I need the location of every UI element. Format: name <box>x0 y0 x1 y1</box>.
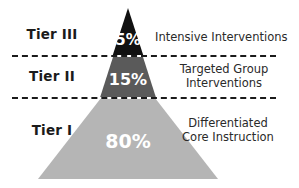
divider-tier3-tier2 <box>12 55 276 57</box>
tier-label-tier-1: Tier I <box>0 122 104 138</box>
tier-label-tier-3: Tier III <box>0 26 104 42</box>
tier-label-tier-2: Tier II <box>0 68 104 84</box>
description-tier-1: Differentiated Core Instruction <box>163 117 293 144</box>
divider-tier2-tier1 <box>12 97 276 99</box>
percent-label-tier-1: 80% <box>100 130 156 152</box>
description-tier-3: Intensive Interventions <box>155 31 287 45</box>
percent-label-tier-3: 5% <box>104 31 152 49</box>
percent-label-tier-2: 15% <box>100 70 156 89</box>
description-tier-2: Targeted Group Interventions <box>160 63 288 90</box>
rti-pyramid-figure: Tier III Tier II Tier I 5% 15% 80% Inten… <box>0 0 299 188</box>
